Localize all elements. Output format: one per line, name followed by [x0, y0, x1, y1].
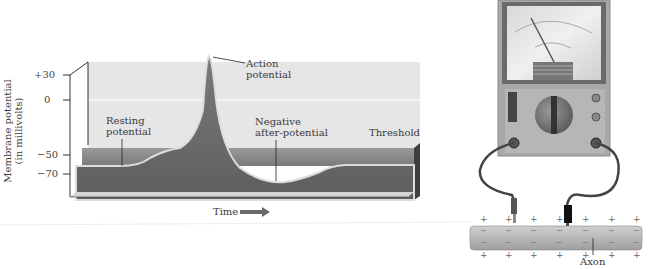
charge-minus: −	[608, 226, 615, 235]
charge-minus: −	[582, 226, 589, 235]
charge-plus: +	[556, 250, 564, 260]
charge-minus: −	[633, 238, 640, 247]
charge-minus: −	[633, 226, 640, 235]
resting-line2: potential	[106, 126, 151, 137]
charge-plus: +	[505, 250, 513, 260]
charge-plus: +	[480, 214, 488, 224]
negative-line1: Negative	[255, 116, 328, 127]
y-axis-label-line2: (in millivolts)	[13, 66, 24, 196]
charge-plus: +	[530, 250, 538, 260]
voltmeter	[498, 0, 610, 156]
charge-plus: +	[556, 214, 564, 224]
y-tick-minus70: −70	[37, 168, 58, 179]
resting-line1: Resting	[106, 115, 151, 126]
y-axis-label-line1: Membrane potential	[2, 66, 13, 196]
charge-minus: −	[556, 226, 563, 235]
y-tick-minus50: −50	[37, 149, 58, 160]
charge-plus: +	[608, 250, 616, 260]
resting-potential-label: Resting potential	[106, 115, 151, 137]
y-axis-label: Membrane potential (in millivolts)	[2, 66, 24, 196]
reference-electrode	[511, 198, 517, 214]
charge-plus: +	[582, 214, 590, 224]
negative-after-potential-label: Negative after-potential	[255, 116, 328, 138]
charge-plus: +	[505, 214, 513, 224]
negative-line2: after-potential	[255, 127, 328, 138]
y-tick-0: 0	[44, 94, 50, 105]
time-arrow-icon	[240, 207, 270, 217]
charge-plus: +	[633, 214, 641, 224]
action-line1: Action	[246, 58, 291, 69]
charge-minus: −	[530, 238, 537, 247]
y-tick-plus30: +30	[34, 69, 55, 80]
charge-plus: +	[480, 250, 488, 260]
action-line2: potential	[246, 69, 291, 80]
charge-minus: −	[530, 226, 537, 235]
recording-electrode	[564, 205, 572, 223]
charge-minus: −	[505, 238, 512, 247]
charge-minus: −	[480, 238, 487, 247]
charge-minus: −	[608, 238, 615, 247]
x-axis-label: Time	[213, 206, 238, 217]
charge-plus: +	[608, 214, 616, 224]
charge-minus: −	[480, 226, 487, 235]
charge-minus: −	[556, 238, 563, 247]
action-potential-label: Action potential	[246, 58, 291, 80]
charge-plus: +	[530, 214, 538, 224]
axon-label: Axon	[580, 256, 605, 267]
charge-plus: +	[633, 250, 641, 260]
charge-minus: −	[582, 238, 589, 247]
threshold-label: Threshold	[369, 127, 420, 138]
threshold-band	[82, 148, 414, 166]
charge-minus: −	[505, 226, 512, 235]
